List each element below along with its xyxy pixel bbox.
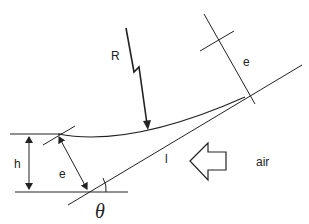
cross-tick xyxy=(200,31,234,51)
theta-arc xyxy=(103,178,106,192)
incline-line xyxy=(68,65,302,205)
diagram-canvas: R e h e l air θ xyxy=(0,0,309,224)
label-r: R xyxy=(111,49,120,63)
e-arrow xyxy=(59,137,87,189)
label-h: h xyxy=(14,157,21,171)
label-air: air xyxy=(256,155,269,169)
r-lightning-arrow xyxy=(126,28,147,124)
deflection-curve xyxy=(58,97,245,137)
label-e-top: e xyxy=(243,55,250,69)
label-l: l xyxy=(165,152,168,166)
air-arrow-icon xyxy=(190,143,226,180)
label-e-left: e xyxy=(59,167,66,181)
r-arrowhead xyxy=(143,120,151,130)
label-theta: θ xyxy=(95,200,105,222)
